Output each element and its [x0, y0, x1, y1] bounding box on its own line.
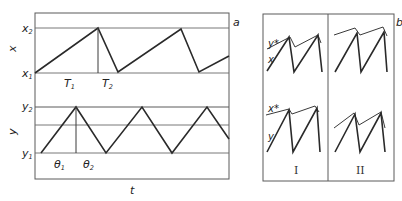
panel-a-frame — [35, 13, 229, 179]
x-sawtooth-curve — [35, 28, 229, 73]
x-star-label: x* — [267, 103, 279, 114]
y2-label: y2 — [21, 100, 33, 114]
t1-label: T1 — [64, 77, 75, 91]
time-axis-label: t — [130, 184, 135, 197]
x-chart — [35, 28, 229, 73]
x1-label: x1 — [21, 67, 33, 81]
sawtooth-b2-bottom — [335, 113, 385, 152]
y1-label: y1 — [21, 147, 33, 161]
x2-label: x2 — [21, 22, 33, 36]
panel-b-col2-bottom — [334, 112, 385, 152]
theta1-label: θ1 — [54, 158, 65, 172]
panel-a: x2 x1 x T1 T2 y2 y1 y θ1 θ2 t a — [6, 13, 240, 197]
t2-label: T2 — [102, 77, 113, 91]
y-star-label: y* — [267, 38, 279, 49]
panel-a-label: a — [233, 16, 240, 29]
y-axis-label: y — [6, 128, 19, 136]
sawtooth-b2-top — [335, 32, 387, 72]
y-sawtooth-b1 — [267, 108, 320, 152]
oscillation-diagram: x2 x1 x T1 T2 y2 y1 y θ1 θ2 t a — [0, 0, 402, 201]
y-triangle-curve — [41, 107, 229, 153]
column-i-label: I — [294, 164, 298, 177]
y-chart — [35, 107, 229, 153]
x-signal-label: x — [267, 54, 274, 65]
column-ii-label: II — [356, 164, 365, 177]
threshold-b2-top — [334, 27, 387, 36]
y-signal-label: y — [267, 131, 275, 142]
panel-b: y* x x* y I II b — [263, 14, 402, 181]
panel-b-col2-top — [334, 27, 387, 72]
panel-b-label: b — [396, 16, 402, 29]
theta2-label: θ2 — [83, 158, 94, 172]
x-axis-label: x — [6, 45, 19, 53]
